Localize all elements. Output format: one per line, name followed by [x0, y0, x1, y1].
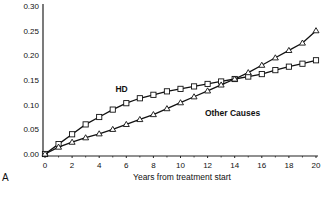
square-marker: [300, 61, 305, 66]
square-marker: [259, 71, 264, 76]
square-marker: [191, 84, 196, 89]
square-marker: [313, 58, 318, 63]
square-marker: [70, 132, 75, 137]
x-tick-label: 0: [43, 161, 48, 170]
square-marker: [137, 96, 142, 101]
square-marker: [164, 89, 169, 94]
y-tick-label: 0.25: [23, 27, 39, 36]
x-tick-label: 12: [203, 161, 212, 170]
series-annotation: Other Causes: [205, 108, 261, 118]
series-layer: [42, 28, 319, 157]
x-tick-label: 14: [230, 161, 239, 170]
square-marker: [110, 107, 115, 112]
panel-label: A: [2, 172, 9, 183]
x-tick-label: 18: [284, 161, 293, 170]
y-tick-label: 0.30: [23, 2, 39, 11]
square-marker: [151, 92, 156, 97]
x-tick-label: 2: [70, 161, 75, 170]
series-annotation: HD: [115, 84, 127, 94]
square-marker: [83, 122, 88, 127]
x-tick-label: 6: [124, 161, 129, 170]
y-tick-label: 0.05: [23, 125, 39, 134]
x-tick-label: 10: [176, 161, 185, 170]
x-tick-label: 16: [257, 161, 266, 170]
y-tick-label: 0.10: [23, 101, 39, 110]
square-marker: [97, 114, 102, 119]
x-tick-label: 20: [312, 161, 321, 170]
chart: 0.000.050.100.150.200.250.30024681012141…: [0, 0, 322, 199]
y-tick-label: 0.20: [23, 51, 39, 60]
square-marker: [124, 101, 129, 106]
square-marker: [286, 64, 291, 69]
square-marker: [273, 68, 278, 73]
x-axis-title: Years from treatment start: [133, 172, 232, 182]
y-tick-label: 0.00: [23, 150, 39, 159]
x-tick-label: 8: [151, 161, 156, 170]
x-tick-label: 4: [97, 161, 102, 170]
square-marker: [205, 81, 210, 86]
axes: [43, 4, 318, 158]
y-tick-label: 0.15: [23, 76, 39, 85]
triangle-marker: [313, 28, 319, 33]
square-marker: [178, 86, 183, 91]
